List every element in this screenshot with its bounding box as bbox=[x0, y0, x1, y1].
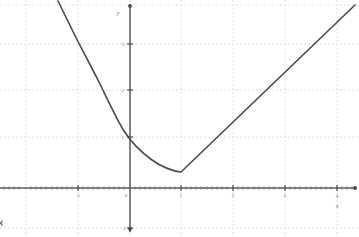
y-tick-label-1: 1 bbox=[122, 135, 125, 140]
x-tick-label-3: 3 bbox=[284, 193, 287, 198]
grid-lines bbox=[0, 0, 359, 237]
curve-path bbox=[58, 1, 355, 172]
x-tick-label-4: 4 bbox=[336, 193, 339, 198]
graph-screenshot: -1 0 1 2 3 4 3 2 1 -1 y x ‹ bbox=[0, 0, 359, 237]
x-tick-label-neg1: -1 bbox=[76, 193, 81, 198]
x-tick-label-1: 1 bbox=[180, 193, 183, 198]
y-tick-label-2: 2 bbox=[122, 88, 125, 93]
y-axis-label: y bbox=[116, 10, 120, 16]
y-tick-label-neg1: -1 bbox=[122, 226, 127, 231]
x-tick-label-0: 0 bbox=[125, 193, 128, 198]
x-axis-arrow-dot bbox=[353, 186, 357, 190]
function-graph: -1 0 1 2 3 4 3 2 1 -1 y x ‹ bbox=[0, 0, 359, 237]
x-tick-label-2: 2 bbox=[232, 193, 235, 198]
y-axis-arrow-dot bbox=[128, 4, 132, 8]
corner-artifact: ‹ bbox=[0, 214, 4, 230]
y-tick-label-3: 3 bbox=[122, 42, 125, 47]
x-axis-label: x bbox=[335, 203, 339, 209]
